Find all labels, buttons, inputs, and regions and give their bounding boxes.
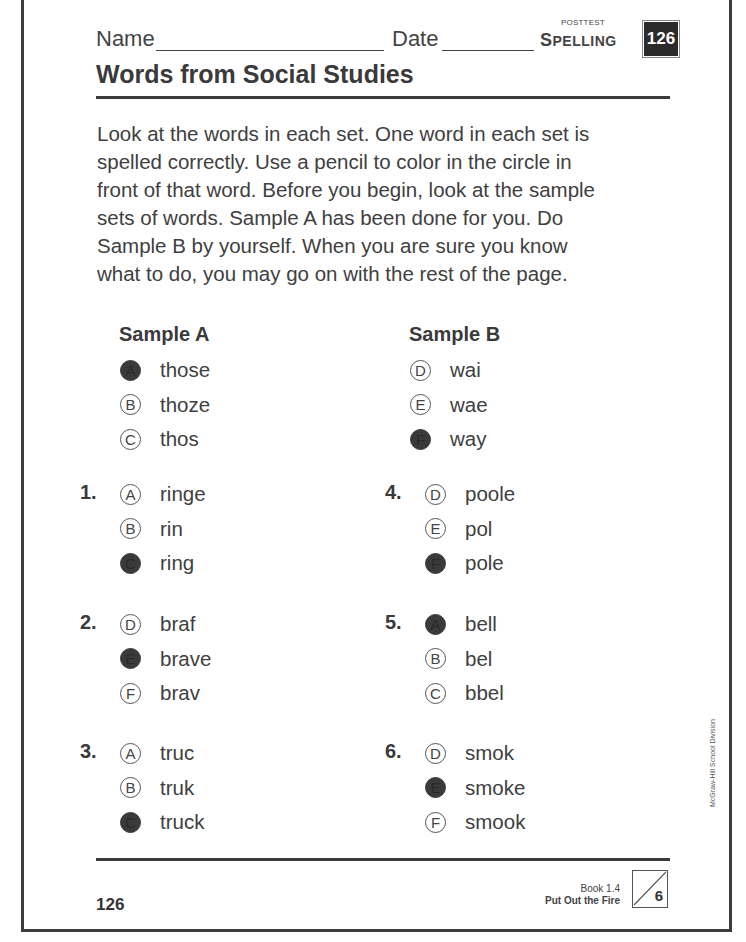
empty-bubble-icon[interactable]: B bbox=[120, 518, 141, 539]
answer-word: poole bbox=[465, 482, 515, 506]
page-title: Words from Social Studies bbox=[96, 60, 414, 89]
answer-word: truc bbox=[160, 741, 194, 765]
answer-word: rin bbox=[160, 517, 183, 541]
worksheet-header: Name Date POSTTEST SPELLING 126 bbox=[96, 22, 670, 56]
empty-bubble-icon[interactable]: B bbox=[120, 394, 141, 415]
answer-option[interactable]: Esmoke bbox=[401, 771, 525, 806]
answer-option[interactable]: Epol bbox=[401, 512, 515, 547]
score-total: 6 bbox=[655, 887, 663, 904]
answer-word: truk bbox=[160, 776, 194, 800]
name-label: Name bbox=[96, 26, 155, 52]
publisher-credit: McGraw-Hill School Division bbox=[709, 719, 716, 807]
answer-word: wae bbox=[450, 393, 488, 417]
answer-word: pole bbox=[465, 551, 504, 575]
empty-bubble-icon[interactable]: D bbox=[410, 360, 431, 381]
filled-bubble-icon[interactable]: E bbox=[120, 648, 141, 669]
answer-option[interactable]: Dwai bbox=[386, 353, 500, 388]
title-divider bbox=[96, 96, 670, 99]
answer-word: thos bbox=[160, 427, 199, 451]
question-number: 3. bbox=[80, 740, 97, 763]
answer-word: smoke bbox=[465, 776, 525, 800]
empty-bubble-icon[interactable]: C bbox=[120, 429, 141, 450]
question-set: 5.AbellBbelCbbel bbox=[385, 607, 504, 711]
answer-word: thoze bbox=[160, 393, 210, 417]
answer-word: truck bbox=[160, 810, 204, 834]
answer-word: way bbox=[450, 427, 486, 451]
empty-bubble-icon[interactable]: F bbox=[425, 812, 446, 833]
subject-label: SPELLING bbox=[540, 30, 617, 51]
empty-bubble-icon[interactable]: B bbox=[425, 648, 446, 669]
answer-option[interactable]: Cbbel bbox=[401, 676, 504, 711]
filled-bubble-icon[interactable]: C bbox=[120, 812, 141, 833]
filled-bubble-icon[interactable]: E bbox=[425, 777, 446, 798]
sample-set: Sample BDwaiEwaeFway bbox=[386, 323, 500, 457]
question-number: 6. bbox=[385, 740, 402, 763]
answer-word: brav bbox=[160, 681, 200, 705]
footer-divider bbox=[96, 858, 670, 861]
empty-bubble-icon[interactable]: A bbox=[120, 484, 141, 505]
answer-option[interactable]: Abell bbox=[401, 607, 504, 642]
empty-bubble-icon[interactable]: E bbox=[410, 394, 431, 415]
filled-bubble-icon[interactable]: F bbox=[410, 429, 431, 450]
answer-word: smok bbox=[465, 741, 514, 765]
question-set: 2.DbrafEbraveFbrav bbox=[80, 607, 211, 711]
answer-word: ring bbox=[160, 551, 194, 575]
answer-option[interactable]: Ewae bbox=[386, 388, 500, 423]
filled-bubble-icon[interactable]: A bbox=[120, 360, 141, 381]
answer-option[interactable]: Fbrav bbox=[96, 676, 211, 711]
date-label: Date bbox=[392, 26, 438, 52]
empty-bubble-icon[interactable]: D bbox=[120, 614, 141, 635]
answer-option[interactable]: Fpole bbox=[401, 546, 515, 581]
answer-word: wai bbox=[450, 358, 481, 382]
empty-bubble-icon[interactable]: D bbox=[425, 484, 446, 505]
question-number: 4. bbox=[385, 481, 402, 504]
answer-option[interactable]: Dsmok bbox=[401, 736, 525, 771]
answer-option[interactable]: Btruk bbox=[96, 771, 204, 806]
answer-word: bell bbox=[465, 612, 497, 636]
score-box: 6 bbox=[632, 870, 668, 908]
answer-option[interactable]: Brin bbox=[96, 512, 206, 547]
answer-option[interactable]: Atruc bbox=[96, 736, 204, 771]
answer-option[interactable]: Dpoole bbox=[401, 477, 515, 512]
empty-bubble-icon[interactable]: B bbox=[120, 777, 141, 798]
answer-word: smook bbox=[465, 810, 525, 834]
empty-bubble-icon[interactable]: C bbox=[425, 683, 446, 704]
filled-bubble-icon[interactable]: A bbox=[425, 614, 446, 635]
sample-title: Sample B bbox=[409, 323, 500, 353]
question-number: 1. bbox=[80, 481, 97, 504]
question-set: 4.DpooleEpolFpole bbox=[385, 477, 515, 581]
answer-word: brave bbox=[160, 647, 211, 671]
answer-option[interactable]: Athose bbox=[96, 353, 210, 388]
answer-word: pol bbox=[465, 517, 492, 541]
question-number: 2. bbox=[80, 611, 97, 634]
question-number: 5. bbox=[385, 611, 402, 634]
question-set: 1.AringeBrinCring bbox=[80, 477, 206, 581]
answer-option[interactable]: Ctruck bbox=[96, 805, 204, 840]
name-field[interactable] bbox=[156, 50, 384, 51]
filled-bubble-icon[interactable]: F bbox=[425, 553, 446, 574]
answer-word: braf bbox=[160, 612, 195, 636]
date-field[interactable] bbox=[442, 50, 534, 51]
answer-word: bbel bbox=[465, 681, 504, 705]
filled-bubble-icon[interactable]: C bbox=[120, 553, 141, 574]
answer-option[interactable]: Bbel bbox=[401, 642, 504, 677]
answer-option[interactable]: Cthos bbox=[96, 422, 210, 457]
answer-option[interactable]: Ebrave bbox=[96, 642, 211, 677]
question-set: 3.AtrucBtrukCtruck bbox=[80, 736, 204, 840]
answer-option[interactable]: Aringe bbox=[96, 477, 206, 512]
book-info: Book 1.4 Put Out the Fire bbox=[545, 883, 620, 907]
answer-word: those bbox=[160, 358, 210, 382]
answer-option[interactable]: Cring bbox=[96, 546, 206, 581]
answer-word: bel bbox=[465, 647, 492, 671]
page-number: 126 bbox=[96, 895, 124, 915]
empty-bubble-icon[interactable]: F bbox=[120, 683, 141, 704]
answer-option[interactable]: Dbraf bbox=[96, 607, 211, 642]
empty-bubble-icon[interactable]: E bbox=[425, 518, 446, 539]
sample-title: Sample A bbox=[119, 323, 210, 353]
answer-option[interactable]: Fway bbox=[386, 422, 500, 457]
empty-bubble-icon[interactable]: D bbox=[425, 743, 446, 764]
empty-bubble-icon[interactable]: A bbox=[120, 743, 141, 764]
answer-option[interactable]: Bthoze bbox=[96, 388, 210, 423]
sample-set: Sample AAthoseBthozeCthos bbox=[96, 323, 210, 457]
answer-option[interactable]: Fsmook bbox=[401, 805, 525, 840]
